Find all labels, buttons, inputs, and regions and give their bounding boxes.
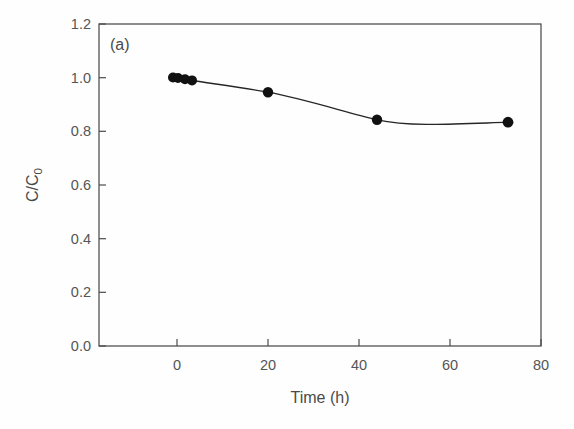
panel-label: (a) [110,36,130,53]
y-axis-ticks [99,24,106,346]
y-axis-title: C/C0 [24,168,44,202]
y-tick-label: 1.0 [71,70,91,86]
y-axis-title-main: C/C [24,174,41,202]
y-tick-label: 0.2 [71,284,91,300]
chart-canvas: 1.2 1.0 0.8 0.6 0.4 0.2 0.0 0 20 40 60 8… [0,0,574,429]
x-axis-ticks [177,339,541,346]
data-point [503,117,514,128]
svg-text:C/C0: C/C0 [24,168,44,202]
x-tick-labels: 0 20 40 60 80 [173,357,549,373]
x-axis-title: Time (h) [291,389,350,406]
chart-figure: 1.2 1.0 0.8 0.6 0.4 0.2 0.0 0 20 40 60 8… [0,0,574,429]
series-line [173,78,508,125]
data-point [263,87,273,97]
y-tick-label: 0.8 [71,123,91,139]
x-tick-label: 80 [533,357,549,373]
x-tick-label: 20 [260,357,276,373]
data-point [187,75,197,85]
x-tick-label: 40 [351,357,367,373]
y-tick-label: 0.0 [71,338,91,354]
y-tick-labels: 1.2 1.0 0.8 0.6 0.4 0.2 0.0 [71,16,91,354]
y-tick-label: 1.2 [71,16,91,32]
plot-frame [99,24,541,346]
x-tick-label: 0 [173,357,181,373]
series-markers [168,73,513,128]
data-point [372,115,382,125]
y-axis-title-subscript: 0 [32,168,44,174]
y-tick-label: 0.6 [71,177,91,193]
y-tick-label: 0.4 [71,231,91,247]
x-tick-label: 60 [442,357,458,373]
